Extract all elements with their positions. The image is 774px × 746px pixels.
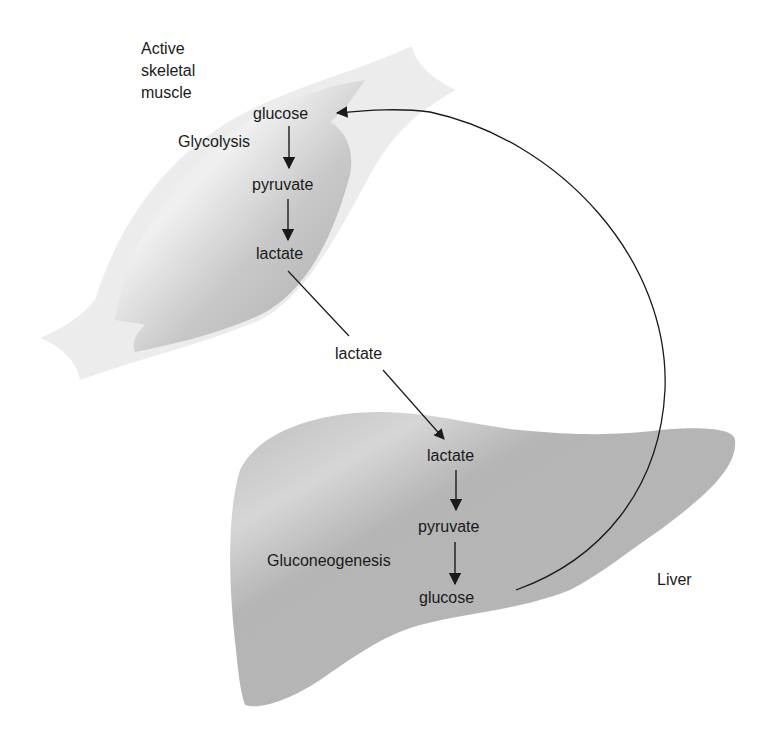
muscle-label-line-2: skeletal: [141, 60, 195, 82]
liver-label: Liver: [657, 570, 692, 590]
liver-pyruvate: pyruvate: [418, 517, 479, 537]
glycolysis-label: Glycolysis: [178, 132, 250, 152]
muscle-pyruvate: pyruvate: [252, 175, 313, 195]
muscle-label-line-1: Active: [141, 38, 185, 60]
liver-lactate: lactate: [427, 446, 474, 466]
muscle-label-line-3: muscle: [141, 82, 192, 104]
muscle-glucose: glucose: [253, 104, 308, 124]
blood-lactate: lactate: [335, 344, 382, 364]
line-muscle-lactate-to-blood: [288, 271, 349, 336]
muscle-lactate: lactate: [256, 244, 303, 264]
cori-cycle-diagram: [0, 0, 774, 746]
liver-glucose: glucose: [419, 588, 474, 608]
gluconeogenesis-label: Gluconeogenesis: [267, 551, 391, 571]
